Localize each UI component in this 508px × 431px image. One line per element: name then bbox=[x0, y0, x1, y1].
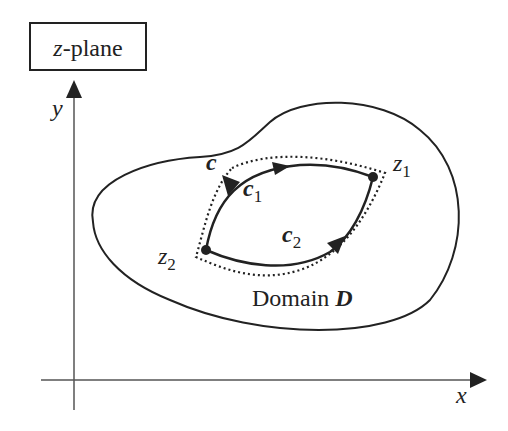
path-c1-label: c1 bbox=[243, 175, 262, 206]
z-plane-diagram: z-plane y x c c1 c2 z1 z2 Domain D bbox=[0, 0, 508, 431]
title-box: z-plane bbox=[30, 23, 146, 70]
svg-text:z-plane: z-plane bbox=[52, 35, 122, 61]
contour-c-label: c bbox=[206, 149, 217, 175]
y-axis-arrow-icon bbox=[66, 80, 82, 98]
x-axis: x bbox=[41, 372, 487, 408]
title-rest: -plane bbox=[63, 35, 123, 61]
path-c1-arrow-icon bbox=[272, 162, 290, 175]
point-z1 bbox=[368, 172, 378, 182]
x-axis-arrow-icon bbox=[470, 372, 487, 388]
path-c2-label: c2 bbox=[282, 221, 301, 252]
domain-label: Domain D bbox=[252, 285, 353, 311]
point-z2-label: z2 bbox=[157, 243, 176, 274]
x-axis-label: x bbox=[455, 382, 467, 408]
title-variable: z bbox=[52, 35, 63, 61]
point-z2 bbox=[201, 245, 211, 255]
y-axis-label: y bbox=[50, 95, 63, 121]
y-axis: y bbox=[50, 80, 82, 410]
point-z1-label: z1 bbox=[392, 150, 411, 181]
